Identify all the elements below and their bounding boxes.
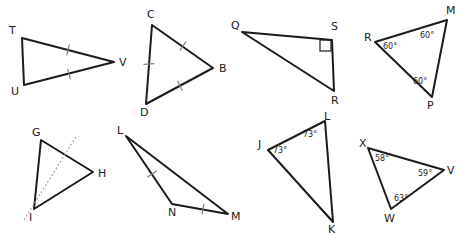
- triangle-tuv-vertex-label-T: T: [8, 24, 16, 37]
- triangle-xvw-vertex-label-X: X: [359, 137, 367, 150]
- triangle-jkl-vertex-label-L: L: [324, 110, 331, 123]
- figures-root: TUVCBDQSR60°60°60°RMPGHILNM73°73°JLK58°5…: [8, 4, 456, 236]
- triangle-cbd-vertex-label-B: B: [219, 62, 227, 75]
- triangle-jkl-vertex-label-J: J: [257, 138, 261, 151]
- triangle-jkl-angle-L: 73°: [303, 130, 317, 139]
- triangle-lnm-tick-NM: [202, 204, 204, 214]
- triangle-rmp-vertex-label-M: M: [446, 4, 456, 17]
- triangle-jkl-angle-J: 73°: [273, 146, 287, 155]
- triangle-rmp-angle-P: 60°: [413, 77, 427, 86]
- triangle-ghi-vertex-label-I: I: [29, 211, 32, 224]
- triangle-jkl-vertex-label-K: K: [328, 223, 336, 236]
- triangle-lnm: LNM: [117, 124, 241, 223]
- triangle-tuv-vertex-label-U: U: [11, 85, 19, 98]
- triangle-qsr-right-angle-marker: [320, 40, 331, 51]
- triangle-tuv-outline: [22, 38, 114, 85]
- triangle-lnm-vertex-label-M: M: [231, 210, 241, 223]
- triangle-cbd-outline: [146, 25, 213, 104]
- triangle-ghi-outline: [34, 140, 93, 209]
- triangle-rmp-vertex-label-R: R: [364, 31, 372, 44]
- triangle-xvw-angle-V: 59°: [418, 169, 432, 178]
- triangle-xvw: 58°59°63°XVW: [359, 137, 455, 225]
- triangle-qsr-vertex-label-R: R: [331, 94, 339, 107]
- triangle-ghi-vertex-label-H: H: [98, 167, 106, 180]
- triangle-xvw-vertex-label-W: W: [384, 212, 395, 225]
- triangle-xvw-vertex-label-V: V: [447, 164, 455, 177]
- triangle-rmp: 60°60°60°RMP: [364, 4, 456, 112]
- triangle-qsr: QSR: [231, 19, 339, 107]
- triangle-tuv: TUV: [8, 24, 127, 98]
- triangle-cbd: CBD: [140, 8, 227, 119]
- triangle-lnm-vertex-label-L: L: [117, 124, 124, 137]
- triangle-cbd-tick-CD: [144, 64, 154, 65]
- triangle-rmp-angle-R: 60°: [383, 42, 397, 51]
- triangle-lnm-vertex-label-N: N: [168, 206, 176, 219]
- triangle-qsr-vertex-label-S: S: [331, 20, 338, 33]
- triangle-jkl: 73°73°JLK: [257, 110, 336, 236]
- triangle-xvw-angle-X: 58°: [375, 154, 389, 163]
- triangle-cbd-vertex-label-D: D: [140, 106, 148, 119]
- triangle-rmp-angle-M: 60°: [420, 31, 434, 40]
- triangle-rmp-vertex-label-P: P: [427, 99, 434, 112]
- triangle-cbd-vertex-label-C: C: [147, 8, 155, 21]
- triangle-ghi: GHI: [24, 126, 106, 224]
- triangle-rmp-outline: [375, 20, 447, 97]
- triangle-xvw-angle-W: 63°: [394, 194, 408, 203]
- triangle-lnm-outline: [126, 136, 228, 214]
- triangle-qsr-vertex-label-Q: Q: [231, 19, 240, 32]
- triangle-ghi-dotted-line: [24, 137, 76, 220]
- triangle-tuv-vertex-label-V: V: [119, 56, 127, 69]
- geometry-figures-canvas: TUVCBDQSR60°60°60°RMPGHILNM73°73°JLK58°5…: [0, 0, 466, 238]
- triangle-jkl-outline: [268, 121, 333, 222]
- triangle-ghi-vertex-label-G: G: [32, 126, 41, 139]
